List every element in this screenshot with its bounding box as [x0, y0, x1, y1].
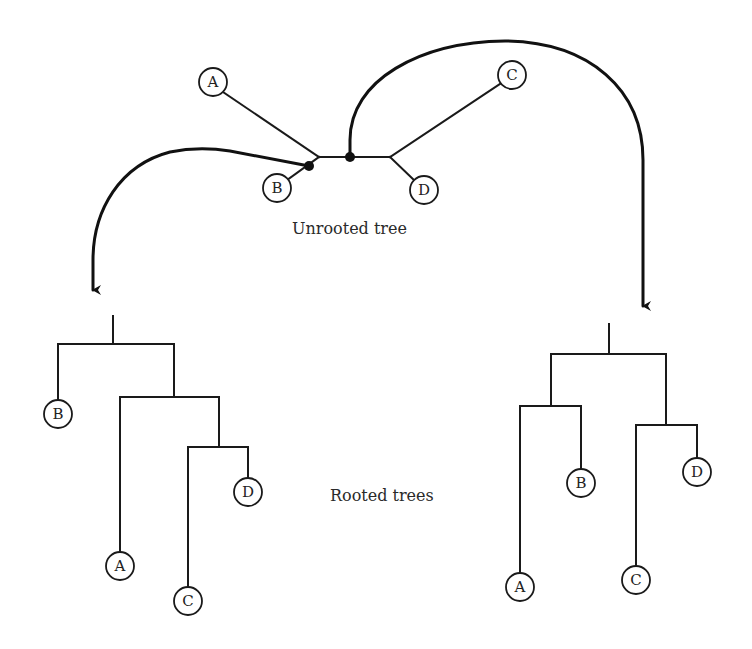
leaf-label: D: [418, 181, 430, 199]
leaf-label: B: [52, 405, 63, 423]
leaf-label: D: [242, 483, 254, 501]
leaf-node-d: D: [410, 176, 438, 204]
edge-c: [390, 84, 500, 157]
leaf-node-c: C: [622, 566, 650, 594]
arrow-to-right-rooted-tree: [350, 41, 643, 306]
leaf-node-a: A: [106, 552, 134, 580]
leaf-node-c: C: [174, 587, 202, 615]
edge-d: [390, 157, 414, 180]
leaf-node-d: D: [683, 458, 711, 486]
edge-a: [223, 92, 319, 157]
leaf-node-d: D: [234, 478, 262, 506]
rooted-caption: Rooted trees: [330, 486, 434, 505]
rooted-tree-right: A B C D: [506, 324, 711, 601]
edge-b: [287, 157, 319, 180]
leaf-label: C: [182, 592, 193, 610]
leaf-label: A: [514, 578, 526, 596]
leaf-label: A: [114, 557, 126, 575]
leaf-label: D: [691, 463, 703, 481]
phylogeny-diagram: A B C D Unrooted tree B: [0, 0, 752, 649]
leaf-label: C: [630, 571, 641, 589]
unrooted-tree: A B C D: [199, 61, 526, 204]
leaf-label: B: [575, 474, 586, 492]
arrow-to-left-rooted-tree: [93, 149, 309, 290]
leaf-node-b: B: [567, 469, 595, 497]
leaf-label: C: [506, 66, 517, 84]
leaf-node-b: B: [263, 174, 291, 202]
leaf-label: B: [271, 179, 282, 197]
leaf-node-a: A: [506, 573, 534, 601]
unrooted-caption: Unrooted tree: [292, 219, 407, 238]
rooted-tree-left: B A C D: [44, 316, 262, 615]
leaf-label: A: [207, 73, 219, 91]
leaf-node-c: C: [498, 61, 526, 89]
leaf-node-b: B: [44, 400, 72, 428]
leaf-node-a: A: [199, 68, 227, 96]
